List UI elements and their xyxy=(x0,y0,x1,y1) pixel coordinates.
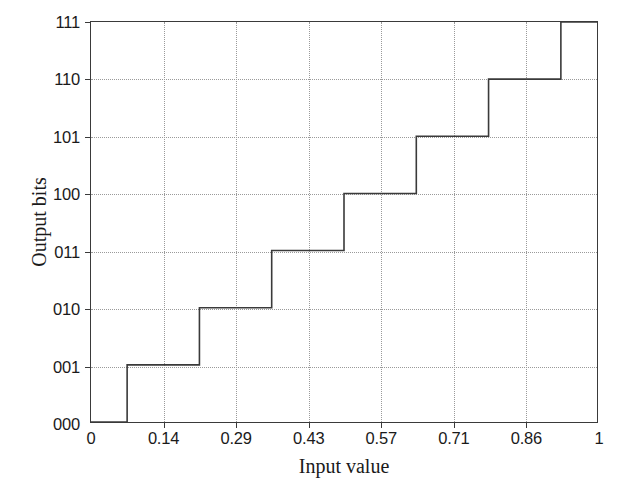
y-tick-label: 110 xyxy=(54,70,80,89)
y-axis-title: Output bits xyxy=(22,21,56,423)
x-tick xyxy=(381,422,382,428)
x-tick xyxy=(164,422,165,428)
x-tick xyxy=(526,422,527,428)
plot-area: 111 110 101 100 011 010 001 000 0 0.14 0… xyxy=(90,21,598,423)
quantizer-staircase-line xyxy=(91,22,597,422)
x-tick-label: 0.29 xyxy=(220,429,251,448)
x-tick-label: 0 xyxy=(87,429,96,448)
quantizer-transfer-chart: 111 110 101 100 011 010 001 000 0 0.14 0… xyxy=(0,0,636,496)
y-tick-label: 001 xyxy=(53,357,80,376)
y-tick-label: 100 xyxy=(53,185,80,204)
x-axis-title: Input value xyxy=(90,455,598,478)
x-tick xyxy=(454,422,455,428)
x-tick-label: 0.14 xyxy=(148,429,179,448)
y-tick-label: 000 xyxy=(53,415,80,434)
y-tick-label: 111 xyxy=(56,13,80,32)
x-tick-label: 0.86 xyxy=(511,429,542,448)
x-tick xyxy=(309,422,310,428)
x-tick-label: 1 xyxy=(595,429,604,448)
y-tick-label: 011 xyxy=(54,242,80,261)
y-tick-label: 101 xyxy=(53,127,80,146)
x-tick xyxy=(236,422,237,428)
x-tick-label: 0.71 xyxy=(438,429,469,448)
y-tick-label: 010 xyxy=(53,300,80,319)
x-tick-label: 0.43 xyxy=(293,429,324,448)
x-tick-label: 0.57 xyxy=(366,429,397,448)
